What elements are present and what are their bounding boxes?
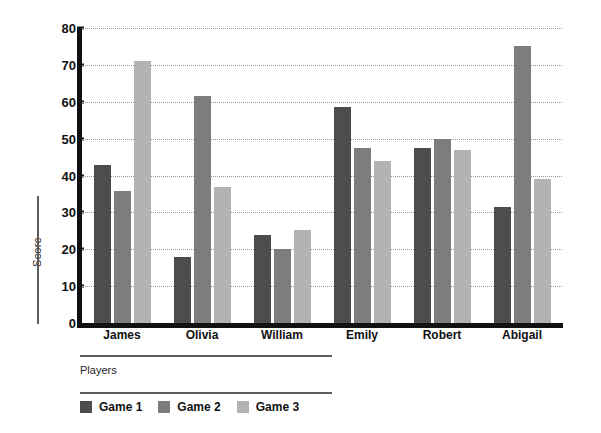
bar[interactable] — [414, 148, 431, 323]
bar[interactable] — [174, 257, 191, 323]
bar[interactable] — [254, 235, 271, 324]
legend-label: Game 1 — [99, 400, 142, 414]
bar-group — [402, 28, 482, 323]
legend-swatch-icon — [158, 401, 170, 413]
bar[interactable] — [514, 46, 531, 323]
bar[interactable] — [494, 207, 511, 323]
y-axis-tick-label: 40 — [40, 168, 76, 183]
bar-group — [162, 28, 242, 323]
bar-chart: Score 01020304050607080 JamesOliviaWilli… — [0, 0, 601, 433]
bar-group — [482, 28, 562, 323]
bar[interactable] — [534, 179, 551, 323]
x-axis-category-label: Abigail — [482, 328, 562, 342]
y-axis-tick-label: 50 — [40, 131, 76, 146]
y-axis-tick-label: 10 — [40, 279, 76, 294]
legend-swatch-icon — [237, 401, 249, 413]
x-axis-category-label: Olivia — [162, 328, 242, 342]
bar-groups — [82, 28, 562, 323]
bar[interactable] — [94, 165, 111, 323]
bar[interactable] — [294, 230, 311, 323]
x-axis-category-label: James — [82, 328, 162, 342]
bar[interactable] — [434, 139, 451, 323]
bar-group — [82, 28, 162, 323]
y-axis-tick-label: 80 — [40, 21, 76, 36]
y-axis-tick-label: 20 — [40, 242, 76, 257]
y-axis-title-rule — [37, 196, 39, 324]
bar[interactable] — [354, 148, 371, 323]
y-axis-tick-label: 70 — [40, 57, 76, 72]
legend-item[interactable]: Game 1 — [80, 400, 142, 414]
bar[interactable] — [374, 161, 391, 323]
y-axis-tick-label: 0 — [40, 316, 76, 331]
x-axis-category-label: Robert — [402, 328, 482, 342]
y-axis-tick-label: 60 — [40, 94, 76, 109]
bar-group — [242, 28, 322, 323]
x-axis-category-label: William — [242, 328, 322, 342]
plot-area — [82, 28, 562, 323]
x-axis-title-rule — [80, 355, 332, 357]
x-axis-category-labels: JamesOliviaWilliamEmilyRobertAbigail — [82, 328, 562, 342]
chart-legend: Game 1Game 2Game 3 — [80, 400, 299, 414]
bar[interactable] — [134, 61, 151, 323]
bar-group — [322, 28, 402, 323]
bar[interactable] — [334, 107, 351, 323]
y-axis-tick-label: 30 — [40, 205, 76, 220]
legend-swatch-icon — [80, 401, 92, 413]
y-axis-tick-labels: 01020304050607080 — [40, 0, 76, 433]
x-axis-title: Players — [80, 364, 117, 376]
legend-item[interactable]: Game 3 — [237, 400, 299, 414]
bar[interactable] — [274, 249, 291, 323]
bar[interactable] — [114, 191, 131, 323]
bar[interactable] — [194, 96, 211, 323]
bar[interactable] — [214, 187, 231, 323]
legend-item[interactable]: Game 2 — [158, 400, 220, 414]
legend-rule — [80, 392, 332, 394]
bar[interactable] — [454, 150, 471, 323]
legend-label: Game 2 — [177, 400, 220, 414]
x-axis-category-label: Emily — [322, 328, 402, 342]
legend-label: Game 3 — [256, 400, 299, 414]
